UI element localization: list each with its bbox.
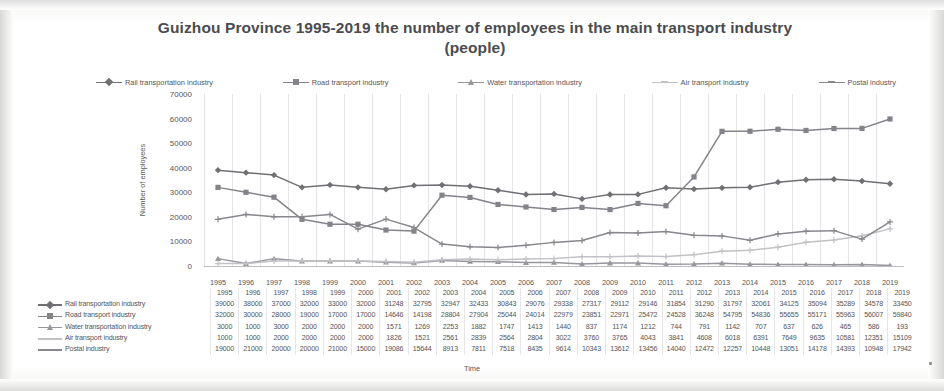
table-cell: 6018	[718, 333, 746, 344]
data-table: 1995199619971998199920002001200220032004…	[36, 288, 916, 364]
data-point	[523, 256, 529, 262]
data-point	[243, 211, 249, 217]
triangle-marker-icon	[38, 323, 62, 332]
table-cell: 7649	[775, 333, 803, 344]
table-cell: 17000	[323, 310, 351, 321]
y-tick-10000: 10000	[170, 237, 192, 246]
table-cell: 1269	[408, 322, 436, 333]
data-point	[355, 226, 361, 232]
table-cell: 32061	[747, 299, 775, 310]
data-point	[747, 129, 752, 134]
table-cell: 38000	[239, 299, 267, 310]
table-cell: 1142	[718, 322, 746, 333]
table-cell: 465	[831, 322, 859, 333]
table-row: Air transport industry100010002000200020…	[36, 333, 916, 344]
table-cell: 1000	[211, 333, 239, 344]
table-cell: 1826	[380, 333, 408, 344]
series-name: Water transportation industry	[65, 322, 151, 333]
data-point	[831, 237, 837, 243]
table-col-header: 2017	[831, 288, 859, 299]
table-cell: 1882	[464, 322, 492, 333]
table-cell: 39000	[211, 299, 239, 310]
chart-title: Guizhou Province 1995-2019 the number of…	[150, 18, 800, 58]
data-point	[607, 254, 613, 260]
data-point	[551, 191, 557, 197]
legend-item-1[interactable]: Road transport industry	[283, 78, 389, 87]
table-row-label-1: Road transport industry	[36, 310, 211, 321]
y-axis-label: Number of employees	[138, 144, 147, 216]
series-name: Rail transportation industry	[65, 299, 145, 310]
table-cell: 8913	[436, 344, 464, 355]
table-cell: 15109	[888, 333, 916, 344]
x-tick-2012: 2012	[686, 278, 702, 287]
y-tick-70000: 70000	[170, 90, 192, 99]
data-point	[523, 204, 528, 209]
legend-item-2[interactable]: Water transportation industry	[458, 78, 582, 87]
legend-label: Water transportation industry	[487, 78, 582, 87]
data-point	[887, 226, 893, 232]
table-col-header: 2006	[521, 288, 549, 299]
data-point	[691, 232, 697, 238]
table-cell: 2253	[436, 322, 464, 333]
table-cell: 12351	[860, 333, 888, 344]
data-point	[495, 245, 501, 251]
table-cell: 1000	[239, 333, 267, 344]
table-cell: 14178	[803, 344, 831, 355]
table-col-header: 1998	[295, 288, 323, 299]
table-cell: 1413	[521, 322, 549, 333]
data-point	[747, 184, 753, 190]
chart-legend: Rail transportation industryRoad transpo…	[96, 74, 896, 90]
table-cell: 2000	[295, 322, 323, 333]
table-cell: 7518	[493, 344, 521, 355]
table-cell: 22979	[549, 310, 577, 321]
table-cell: 3022	[549, 333, 577, 344]
table-cell: 14198	[408, 310, 436, 321]
data-point	[523, 242, 529, 248]
table-cell: 25472	[634, 310, 662, 321]
table-col-header: 1999	[323, 288, 351, 299]
table-cell: 8435	[521, 344, 549, 355]
table-cell: 3760	[577, 333, 605, 344]
x-tick-2017: 2017	[826, 278, 842, 287]
table-cell: 626	[803, 322, 831, 333]
table-cell: 19000	[211, 344, 239, 355]
table-cell: 744	[662, 322, 690, 333]
data-point	[859, 178, 865, 184]
table-cell: 31797	[718, 299, 746, 310]
table-col-header: 1996	[239, 288, 267, 299]
data-point	[803, 239, 809, 245]
page-edge-right	[928, 0, 944, 391]
table-col-header: 2004	[464, 288, 492, 299]
table-col-header: 2018	[860, 288, 888, 299]
legend-item-4[interactable]: Postal industry	[819, 78, 896, 87]
table-corner-cell	[36, 288, 211, 299]
table-cell: 55963	[831, 310, 859, 321]
table-cell: 14393	[831, 344, 859, 355]
table-cell: 1174	[606, 322, 634, 333]
table-row-label-2: Water transportation industry	[36, 322, 211, 333]
data-point	[495, 187, 501, 193]
table-cell: 17000	[352, 310, 380, 321]
data-point	[467, 195, 472, 200]
data-point	[635, 191, 641, 197]
page-edge-left	[0, 0, 14, 391]
y-tick-0: 0	[188, 262, 192, 271]
table-cell: 54836	[747, 310, 775, 321]
data-point	[579, 254, 585, 260]
table-cell: 54795	[718, 310, 746, 321]
data-point	[299, 184, 305, 190]
table-cell: 32000	[352, 299, 380, 310]
data-point	[439, 182, 445, 188]
legend-label: Air transport industry	[681, 78, 749, 87]
data-point	[327, 182, 333, 188]
series-name: Postal industry	[65, 344, 109, 355]
data-point	[691, 174, 696, 179]
table-cell: 19000	[295, 310, 323, 321]
table-cell: 1521	[408, 333, 436, 344]
table-col-header: 1997	[267, 288, 295, 299]
legend-item-0[interactable]: Rail transportation industry	[96, 78, 213, 87]
table-cell: 4043	[634, 333, 662, 344]
legend-item-3[interactable]: Air transport industry	[652, 78, 749, 87]
table-cell: 193	[888, 322, 916, 333]
table-cell: 6391	[747, 333, 775, 344]
